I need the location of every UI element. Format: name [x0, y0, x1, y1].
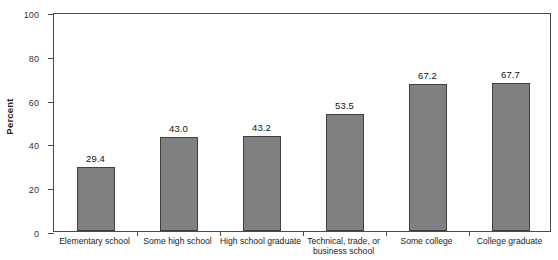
y-axis-tick-label: 0 — [34, 229, 39, 239]
x-axis-category-label-line: Elementary school — [59, 236, 130, 246]
bar: 43.2 — [243, 136, 281, 231]
x-axis-category-label-line: Some college — [400, 236, 452, 246]
y-axis-tick-label: 20 — [29, 185, 39, 195]
bar-chart: Percent 02040608010029.443.043.253.567.2… — [0, 0, 558, 260]
x-axis-category-label-line: Some high school — [143, 236, 211, 246]
x-axis-category-label: Technical, trade, orbusiness school — [302, 236, 385, 256]
y-axis-tick: 80 — [48, 58, 54, 59]
y-axis-tick: 20 — [48, 189, 54, 190]
bar: 53.5 — [326, 114, 364, 231]
bar: 29.4 — [77, 167, 115, 231]
y-axis-tick-label: 60 — [29, 98, 39, 108]
bar: 67.7 — [492, 83, 530, 231]
y-axis-tick-label: 80 — [29, 54, 39, 64]
y-axis-label: Percent — [0, 0, 18, 232]
bar-value-label: 67.2 — [418, 70, 437, 81]
bar-value-label: 43.2 — [252, 122, 271, 133]
chart-title — [36, 0, 336, 2]
y-axis-tick: 0 — [48, 233, 54, 234]
x-axis-category-label: High school graduate — [219, 236, 302, 246]
bar-value-label: 67.7 — [501, 69, 520, 80]
y-axis-tick-label: 40 — [29, 141, 39, 151]
bar-value-label: 53.5 — [335, 100, 354, 111]
bar-value-label: 29.4 — [86, 153, 105, 164]
x-axis-category-label-line: High school graduate — [220, 236, 301, 246]
x-axis-category-label: College graduate — [468, 236, 551, 246]
x-axis-category-label-line: Technical, trade, or — [307, 236, 380, 246]
x-axis-category-label: Some college — [385, 236, 468, 246]
x-axis-category-label-line: business school — [302, 246, 385, 256]
bar-value-label: 43.0 — [169, 123, 188, 134]
y-axis-tick: 40 — [48, 145, 54, 146]
bar: 67.2 — [409, 84, 447, 231]
x-axis-category-label: Some high school — [136, 236, 219, 246]
y-axis-tick-label: 100 — [24, 10, 39, 20]
x-axis-category-label: Elementary school — [53, 236, 136, 246]
y-axis-label-text: Percent — [4, 98, 15, 134]
y-axis-tick: 100 — [48, 14, 54, 15]
y-axis-tick: 60 — [48, 102, 54, 103]
bar: 43.0 — [160, 137, 198, 231]
plot-area: 02040608010029.443.043.253.567.267.7 — [53, 13, 551, 232]
x-axis-category-label-line: College graduate — [477, 236, 542, 246]
